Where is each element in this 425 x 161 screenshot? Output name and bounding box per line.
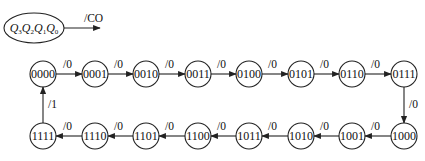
state-node: 1001 — [339, 123, 365, 149]
svg-text:1101: 1101 — [134, 129, 158, 143]
left-transition: /1 — [43, 87, 57, 123]
transition-label: /1 — [48, 98, 57, 110]
state-node: 1100 — [185, 123, 211, 149]
transition-label: /0 — [320, 58, 329, 70]
transition-label: /0 — [268, 120, 277, 132]
state-node: 1111 — [30, 123, 56, 149]
transition-label: /0 — [63, 120, 72, 132]
state-node: 1000 — [391, 123, 417, 149]
svg-text:0011: 0011 — [186, 67, 210, 81]
legend-state-vars: Q3Q2Q1Q0 — [10, 21, 59, 36]
legend-output-label: /CO — [84, 12, 103, 24]
state-node: 0111 — [391, 61, 417, 87]
state-node: 1101 — [133, 123, 159, 149]
transition-label: /0 — [409, 98, 418, 110]
state-node: 0010 — [133, 61, 159, 87]
state-node: 0110 — [339, 61, 365, 87]
transition-label: /0 — [217, 58, 226, 70]
svg-text:1010: 1010 — [289, 129, 313, 143]
state-node: 1011 — [236, 123, 262, 149]
svg-text:1011: 1011 — [237, 129, 261, 143]
svg-text:0101: 0101 — [289, 67, 313, 81]
svg-text:1110: 1110 — [83, 129, 106, 143]
svg-text:0110: 0110 — [340, 67, 364, 81]
transition-label: /0 — [320, 120, 329, 132]
svg-text:1001: 1001 — [340, 129, 364, 143]
svg-text:1000: 1000 — [392, 129, 416, 143]
state-node: 1010 — [288, 123, 314, 149]
transition-label: /0 — [217, 120, 226, 132]
svg-text:0001: 0001 — [83, 67, 107, 81]
legend: Q3Q2Q1Q0 /CO — [4, 12, 103, 43]
svg-text:0111: 0111 — [392, 67, 415, 81]
right-transition: /0 — [404, 87, 418, 123]
state-diagram: Q3Q2Q1Q0 /CO 0000 0001 0010 0011 0100 01… — [0, 0, 425, 161]
svg-text:1111: 1111 — [32, 129, 55, 143]
transition-label: /0 — [371, 120, 380, 132]
transition-label: /0 — [114, 120, 123, 132]
state-node: 0101 — [288, 61, 314, 87]
transition-label: /0 — [268, 58, 277, 70]
transition-label: /0 — [114, 58, 123, 70]
transition-label: /0 — [165, 58, 174, 70]
svg-text:1100: 1100 — [186, 129, 210, 143]
state-node: 0100 — [236, 61, 262, 87]
state-node: 1110 — [82, 123, 108, 149]
state-node: 0001 — [82, 61, 108, 87]
state-node: 0000 — [30, 61, 56, 87]
transition-label: /0 — [371, 58, 380, 70]
transition-label: /0 — [165, 120, 174, 132]
state-node: 0011 — [185, 61, 211, 87]
svg-text:0010: 0010 — [134, 67, 158, 81]
transition-label: /0 — [63, 58, 72, 70]
svg-text:0100: 0100 — [237, 67, 261, 81]
svg-text:0000: 0000 — [31, 67, 55, 81]
